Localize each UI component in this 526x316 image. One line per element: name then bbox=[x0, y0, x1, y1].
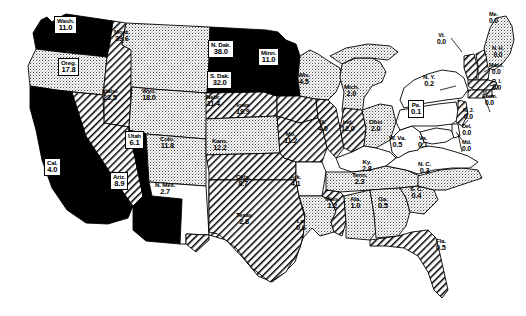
label-CA: Cal.4.0 bbox=[44, 158, 61, 176]
label-SC: S. C.0.4 bbox=[410, 186, 423, 200]
label-OH: Ohio2.0 bbox=[369, 119, 382, 133]
label-NV: Nev.0.2 bbox=[60, 110, 72, 124]
state-MT bbox=[122, 23, 210, 96]
label-MI: Mich.2.0 bbox=[344, 84, 359, 98]
label-MA: Mass.0.0 bbox=[489, 63, 504, 76]
label-NH: N. H.0.0 bbox=[492, 46, 504, 59]
label-WI: Wis.4.5 bbox=[298, 72, 310, 86]
label-GA: Ga.0.5 bbox=[378, 196, 388, 210]
state-CO bbox=[146, 134, 206, 186]
label-OK: Okla.8.7 bbox=[236, 174, 250, 188]
label-NC: N. C.0.3 bbox=[418, 161, 431, 175]
label-ME: Me.0.0 bbox=[489, 12, 498, 25]
label-VA: Va.0.1 bbox=[418, 135, 428, 149]
label-PA: Pa.0.1 bbox=[408, 100, 424, 118]
label-UT: Utah6.1 bbox=[125, 131, 144, 149]
label-ID: Idaho23.5 bbox=[102, 88, 118, 102]
label-MO: Mo.11.2 bbox=[284, 131, 297, 145]
label-AZ: Ariz.8.9 bbox=[110, 172, 128, 190]
label-DE: Del.0.0 bbox=[462, 124, 471, 137]
state-OK bbox=[206, 153, 296, 180]
label-TX: Texas2.8 bbox=[236, 212, 252, 226]
label-IN: Ind.12.0 bbox=[341, 119, 355, 133]
label-TN: Tenn.2.3 bbox=[352, 172, 367, 186]
label-CO: Colo.11.8 bbox=[160, 136, 174, 150]
label-NE: Nebr.11.4 bbox=[206, 94, 220, 108]
label-WV: W. Va.0.5 bbox=[389, 135, 406, 149]
label-AR: Ark.4.1 bbox=[290, 174, 301, 188]
label-ND: N. Dak.38.0 bbox=[208, 40, 234, 58]
state-VT bbox=[464, 54, 478, 80]
label-RI: R. I.0.0 bbox=[492, 79, 501, 92]
label-FL: Fla.0.5 bbox=[436, 238, 446, 252]
label-MT: Mont.39.6 bbox=[114, 29, 130, 43]
label-WA: Wash.11.0 bbox=[54, 16, 77, 34]
label-MS: Miss.1.2 bbox=[325, 196, 339, 210]
label-SD: S. Dak.32.0 bbox=[207, 71, 232, 89]
label-LA: La.0.6 bbox=[296, 218, 306, 232]
label-MD: Md.0.0 bbox=[462, 140, 471, 153]
label-VT: Vt.0.0 bbox=[437, 33, 446, 46]
label-CT: Conn.0.0 bbox=[482, 94, 497, 107]
label-IL: Ill.4.0 bbox=[318, 119, 328, 133]
label-NJ: N. J.0.0 bbox=[463, 108, 474, 121]
label-MN: Minn.11.0 bbox=[258, 48, 279, 66]
label-NM: N. Mex.2.7 bbox=[155, 182, 175, 196]
map-figure: Wash.11.0 Oreg.17.8 Idaho23.5 Mont.39.6 … bbox=[0, 0, 526, 316]
label-WY: Wyo.18.0 bbox=[142, 88, 156, 102]
label-NY: N. Y.0.2 bbox=[423, 74, 435, 88]
state-TX-body bbox=[209, 180, 306, 282]
label-KS: Kans.12.2 bbox=[212, 138, 228, 152]
label-AL: Ala.1.0 bbox=[350, 196, 361, 210]
label-IA: Iowa19.9 bbox=[236, 102, 250, 116]
state-AZ bbox=[133, 196, 186, 244]
label-OR: Oreg.17.8 bbox=[58, 58, 79, 76]
